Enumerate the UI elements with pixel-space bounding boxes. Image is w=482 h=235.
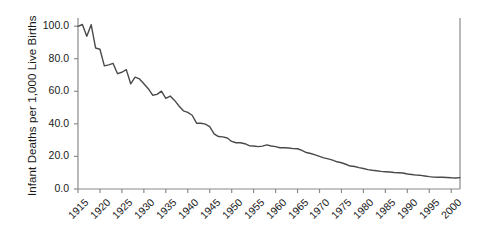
data-series-line bbox=[78, 25, 460, 178]
y-tick-label: 80.0 bbox=[25, 52, 69, 64]
infant-mortality-line-chart: Infant Deaths per 1,000 Live Births 0.02… bbox=[0, 0, 482, 235]
y-tick-label: 40.0 bbox=[25, 117, 69, 129]
y-tick-label: 60.0 bbox=[25, 84, 69, 96]
y-tick-label: 100.0 bbox=[25, 19, 69, 31]
y-tick-label: 0.0 bbox=[25, 182, 69, 194]
y-tick-label: 20.0 bbox=[25, 149, 69, 161]
